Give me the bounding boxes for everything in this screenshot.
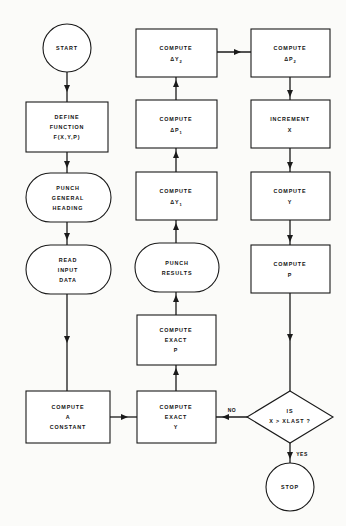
node-punch-results[interactable]: PUNCH RESULTS <box>135 243 219 292</box>
arrow-icon <box>222 414 229 420</box>
arrow-icon <box>287 452 293 459</box>
node-compute-exact-p-line2: EXACT <box>165 337 188 343</box>
arrow-icon <box>234 49 241 55</box>
node-define-function-line3: F(X,Y,P) <box>54 134 81 140</box>
node-compute-delta-y1[interactable]: COMPUTE ΔY1 <box>136 172 217 220</box>
node-read-input-data[interactable]: READ INPUT DATA <box>26 245 111 294</box>
arrow-icon <box>64 85 70 92</box>
arrow-icon <box>173 80 179 87</box>
connector-decision-yes-to-stop <box>287 443 293 463</box>
node-punch-general-heading-line3: HEADING <box>53 205 84 211</box>
node-read-input-data-line2: INPUT <box>58 267 78 273</box>
node-compute-a-constant-line3: CONSTANT <box>50 424 86 430</box>
connector-exact-p-to-punch-results <box>173 292 179 315</box>
node-punch-results-line2: RESULTS <box>162 270 193 276</box>
connector-dp2-to-increment <box>287 77 293 100</box>
arrow-icon <box>287 235 293 242</box>
node-define-function[interactable]: DEFINE FUNCTION F(X,Y,P) <box>26 102 108 152</box>
arrow-icon <box>173 223 179 230</box>
node-compute-delta-p2-line1: COMPUTE <box>274 45 307 51</box>
arrow-icon <box>121 414 128 420</box>
connector-dp1-to-dy2 <box>173 77 179 100</box>
node-compute-exact-y-line3: Y <box>174 424 178 430</box>
connector-increment-to-compute-y <box>287 148 293 172</box>
node-stop[interactable]: STOP <box>266 463 314 511</box>
node-compute-exact-p[interactable]: COMPUTE EXACT P <box>137 315 216 365</box>
arrow-icon <box>287 334 293 341</box>
arrow-icon <box>173 368 179 375</box>
node-compute-exact-p-line1: COMPUTE <box>160 327 193 333</box>
node-compute-a-constant[interactable]: COMPUTE A CONSTANT <box>26 391 110 443</box>
node-compute-p[interactable]: COMPUTE P <box>251 245 330 293</box>
connector-decision-no-to-exact-y <box>216 414 249 420</box>
connector-punch-heading-to-read <box>64 222 70 245</box>
node-start-label: START <box>56 45 78 51</box>
node-punch-results-line1: PUNCH <box>165 260 188 266</box>
node-compute-y-line2: Y <box>288 199 292 205</box>
connector-constant-to-exact-y <box>110 414 137 420</box>
node-read-input-data-line1: READ <box>59 257 78 263</box>
node-decision-xlast-line1: IS <box>287 408 294 414</box>
node-read-input-data-line3: DATA <box>59 277 77 283</box>
arrow-icon <box>173 295 179 302</box>
node-compute-exact-y-line1: COMPUTE <box>160 404 193 410</box>
node-compute-delta-p2[interactable]: COMPUTE ΔP2 <box>251 29 330 77</box>
node-compute-p-line2: P <box>288 272 292 278</box>
node-define-function-line2: FUNCTION <box>50 124 85 130</box>
node-stop-label: STOP <box>281 484 299 490</box>
node-compute-delta-y2[interactable]: COMPUTE ΔY2 <box>136 29 217 77</box>
node-compute-delta-p1[interactable]: COMPUTE ΔP1 <box>136 100 217 148</box>
connector-compute-p-to-decision <box>287 293 293 391</box>
arrow-icon <box>64 233 70 240</box>
node-compute-delta-y1-line1: COMPUTE <box>160 188 193 194</box>
node-define-function-line1: DEFINE <box>55 114 80 120</box>
node-compute-delta-p1-line1: COMPUTE <box>160 116 193 122</box>
flowchart-canvas: START DEFINE FUNCTION F(X,Y,P) PUNCH GEN… <box>0 0 346 526</box>
edge-label-yes: YES <box>296 451 308 457</box>
node-punch-general-heading-line1: PUNCH <box>56 185 79 191</box>
connector-punch-results-to-dy1 <box>173 220 179 243</box>
connector-dy2-to-dp2 <box>217 49 251 55</box>
node-compute-a-constant-line1: COMPUTE <box>52 404 85 410</box>
node-decision-xlast[interactable]: IS X > XLAST ? <box>247 391 333 443</box>
node-start[interactable]: START <box>43 24 91 72</box>
flowchart-svg: START DEFINE FUNCTION F(X,Y,P) PUNCH GEN… <box>0 0 346 526</box>
connector-dy1-to-dp1 <box>173 148 179 172</box>
node-compute-y-line1: COMPUTE <box>274 188 307 194</box>
node-punch-general-heading[interactable]: PUNCH GENERAL HEADING <box>26 173 111 222</box>
node-increment-x-line2: X <box>288 127 292 133</box>
node-punch-general-heading-line2: GENERAL <box>52 195 84 201</box>
node-increment-x[interactable]: INCREMENT X <box>251 100 330 148</box>
connector-exact-y-to-exact-p <box>173 365 179 391</box>
connector-compute-y-to-compute-p <box>287 220 293 245</box>
node-compute-exact-p-line3: P <box>174 347 178 353</box>
edge-label-no: NO <box>228 407 237 413</box>
arrow-icon <box>287 90 293 97</box>
connector-start-to-define <box>64 72 70 102</box>
node-compute-exact-y[interactable]: COMPUTE EXACT Y <box>137 391 216 443</box>
connector-read-to-constant <box>64 294 70 391</box>
node-compute-a-constant-line2: A <box>66 414 71 420</box>
arrow-icon <box>64 161 70 168</box>
arrow-icon <box>173 151 179 158</box>
node-decision-xlast-line2: X > XLAST ? <box>269 418 311 424</box>
node-compute-y[interactable]: COMPUTE Y <box>251 172 330 220</box>
node-compute-delta-y2-line1: COMPUTE <box>160 45 193 51</box>
node-compute-exact-y-line2: EXACT <box>165 414 188 420</box>
arrow-icon <box>64 336 70 343</box>
node-increment-x-line1: INCREMENT <box>270 116 310 122</box>
connector-define-to-punch-heading <box>64 152 70 173</box>
arrow-icon <box>287 162 293 169</box>
node-compute-p-line1: COMPUTE <box>274 261 307 267</box>
